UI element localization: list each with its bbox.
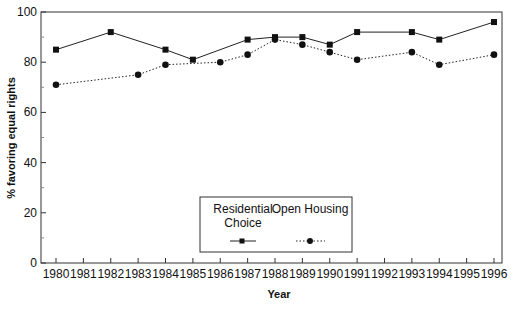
line-chart: 020406080100 198019811982198319841985198… [0,0,511,311]
y-axis-title: % favoring equal rights [5,77,17,199]
x-tick-label: 1988 [262,267,289,281]
square-marker-icon [190,57,196,63]
square-marker-icon [299,34,305,40]
x-tick-label: 1985 [180,267,207,281]
legend-label-open-housing: Open Housing [272,202,349,216]
square-marker-icon [163,47,169,53]
x-tick-label: 1996 [481,267,508,281]
square-marker-icon [245,37,251,43]
y-tick-label: 100 [17,5,37,19]
y-tick-label: 60 [24,105,38,119]
y-tick-label: 40 [24,156,38,170]
square-marker-icon [108,29,114,35]
circle-marker-icon [436,61,443,68]
circle-marker-icon [354,56,361,63]
square-marker-icon [409,29,415,35]
chart-canvas: 020406080100 198019811982198319841985198… [0,0,511,311]
x-axis-title: Year [267,288,291,300]
circle-marker-icon [135,71,142,78]
x-tick-label: 1992 [371,267,398,281]
series-open-housing [53,36,498,88]
circle-marker-icon [299,41,306,48]
y-tick-label: 0 [30,256,37,270]
series-line [56,40,494,85]
y-axis: 020406080100 [17,5,46,270]
x-tick-label: 1995 [453,267,480,281]
x-tick-label: 1986 [207,267,234,281]
circle-marker-icon [307,238,313,244]
square-marker-icon [240,239,245,244]
x-tick-label: 1990 [316,267,343,281]
y-tick-label: 20 [24,206,38,220]
circle-marker-icon [244,51,251,58]
circle-marker-icon [53,81,60,88]
circle-marker-icon [162,61,169,68]
series-layer [53,19,498,88]
x-tick-label: 1980 [43,267,70,281]
legend-label-residential-choice-line2: Choice [224,216,262,230]
circle-marker-icon [409,49,416,56]
square-marker-icon [53,47,59,53]
x-tick-label: 1983 [125,267,152,281]
x-tick-label: 1987 [234,267,261,281]
square-marker-icon [354,29,360,35]
y-tick-label: 80 [24,55,38,69]
square-marker-icon [327,42,333,48]
x-axis: 1980198119821983198419851986198719881989… [43,258,508,281]
x-tick-label: 1991 [344,267,371,281]
x-tick-label: 1989 [289,267,316,281]
circle-marker-icon [326,49,333,56]
x-tick-label: 1982 [97,267,124,281]
legend-label-residential-choice-line1: Residential [213,202,272,216]
x-tick-label: 1981 [70,267,97,281]
x-tick-label: 1984 [152,267,179,281]
legend: Residential Choice Open Housing [200,197,352,252]
circle-marker-icon [272,36,279,43]
x-tick-label: 1994 [426,267,453,281]
square-marker-icon [436,37,442,43]
circle-marker-icon [491,51,498,58]
square-marker-icon [491,19,497,25]
x-tick-label: 1993 [399,267,426,281]
circle-marker-icon [217,59,224,66]
